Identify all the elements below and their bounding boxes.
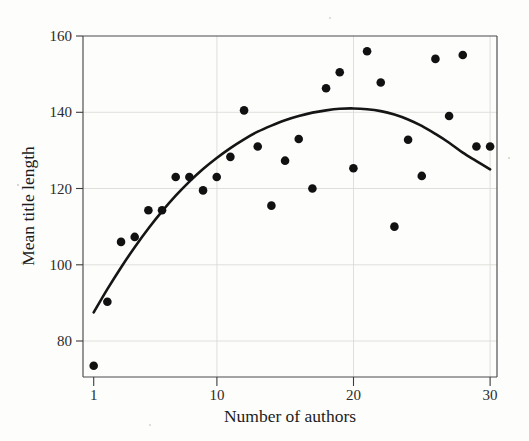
data-point (103, 297, 112, 306)
y-tick-label-80: 80 (57, 333, 72, 349)
data-point (349, 164, 358, 173)
data-point (199, 186, 208, 195)
gridlines-group (83, 36, 497, 377)
data-point (185, 173, 194, 182)
data-point (253, 142, 262, 151)
data-point (89, 361, 98, 370)
x-tick-label-30: 30 (483, 387, 498, 403)
data-point (240, 106, 249, 115)
data-point (417, 172, 426, 181)
plot-frame (83, 36, 497, 377)
data-point (431, 55, 440, 64)
data-point (472, 142, 481, 151)
data-point (281, 156, 290, 165)
x-axis-title: Number of authors (224, 406, 356, 426)
data-point (445, 112, 454, 121)
data-point (322, 84, 331, 93)
y-axis-title: Mean title length (18, 146, 38, 266)
x-tick-label-1: 1 (90, 387, 98, 403)
scatter-plot-figure: 160 140 120 100 80 1 10 20 30 Number of … (0, 0, 529, 441)
data-point (267, 201, 276, 210)
plot-canvas: 160 140 120 100 80 1 10 20 30 Number of … (0, 0, 529, 441)
data-point (404, 135, 413, 144)
fitted-trend-curve (94, 108, 490, 312)
data-point (376, 78, 385, 87)
x-tick-labels: 1 10 20 30 (90, 387, 498, 403)
data-point (294, 135, 303, 144)
data-point (158, 206, 167, 215)
x-tick-label-20: 20 (346, 387, 361, 403)
y-tick-label-140: 140 (50, 104, 73, 120)
data-point (308, 184, 317, 193)
data-point (390, 222, 399, 231)
x-tick-marks (94, 377, 490, 386)
data-point (458, 51, 467, 60)
y-tick-marks (76, 36, 83, 341)
data-point (363, 47, 372, 56)
data-point (117, 238, 126, 247)
y-tick-labels: 160 140 120 100 80 (50, 28, 73, 349)
scatter-points-group (89, 47, 494, 370)
x-tick-label-10: 10 (209, 387, 224, 403)
data-point (335, 68, 344, 77)
data-point (130, 233, 139, 242)
data-point (226, 153, 235, 162)
y-tick-label-120: 120 (50, 181, 73, 197)
y-tick-label-160: 160 (50, 28, 73, 44)
data-point (486, 142, 495, 151)
y-tick-label-100: 100 (50, 257, 73, 273)
data-point (171, 173, 180, 182)
data-point (212, 173, 221, 182)
data-point (144, 206, 153, 215)
